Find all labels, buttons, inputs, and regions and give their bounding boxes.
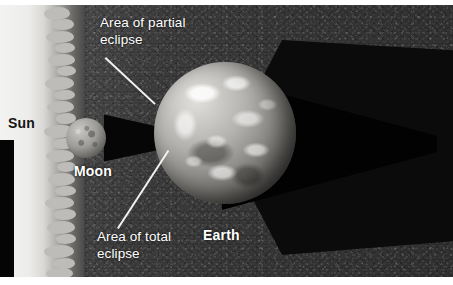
bottom-margin <box>0 277 453 285</box>
eclipse-diagram-figure: Sun Area of partial eclipse Area of tota… <box>0 0 453 285</box>
earth-sphere <box>154 62 296 204</box>
moon-label: Moon <box>74 163 112 179</box>
callout-partial-eclipse: Area of partial eclipse <box>100 14 186 48</box>
earth-label: Earth <box>203 227 240 243</box>
adjacent-figure-edge-block <box>0 140 14 277</box>
top-margin <box>0 0 453 5</box>
sun-label: Sun <box>8 115 35 131</box>
moon-sphere <box>66 118 106 158</box>
callout-total-eclipse: Area of total eclipse <box>97 228 171 262</box>
